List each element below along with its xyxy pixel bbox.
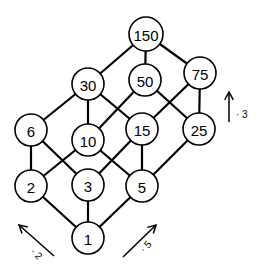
arrow-line-icon bbox=[123, 225, 156, 257]
node-label: 75 bbox=[192, 66, 209, 83]
node-label: 30 bbox=[80, 77, 97, 94]
node-label: 10 bbox=[80, 133, 97, 150]
node-label: 25 bbox=[191, 122, 208, 139]
node-label: 6 bbox=[27, 123, 35, 140]
lattice-nodes: 15030507561015252351 bbox=[15, 17, 216, 254]
arrow-label: · 3 bbox=[236, 109, 248, 120]
divisor-lattice-diagram: 15030507561015252351 · 2· 5· 3 bbox=[0, 0, 261, 273]
node-label: 3 bbox=[84, 178, 92, 195]
node-30: 30 bbox=[72, 68, 104, 100]
node-label: 1 bbox=[84, 231, 92, 248]
node-label: 5 bbox=[138, 179, 146, 196]
arrow-label: · 2 bbox=[29, 246, 45, 262]
arrow-times5: · 5 bbox=[123, 225, 156, 257]
arrow-times3: · 3 bbox=[225, 92, 248, 122]
node-50: 50 bbox=[129, 64, 161, 96]
node-25: 25 bbox=[183, 113, 215, 145]
node-150: 150 bbox=[129, 17, 163, 51]
node-5: 5 bbox=[126, 170, 158, 202]
arrow-times2: · 2 bbox=[19, 225, 54, 262]
node-1: 1 bbox=[72, 222, 104, 254]
lattice-edges bbox=[31, 34, 200, 238]
node-2: 2 bbox=[15, 170, 47, 202]
node-label: 15 bbox=[134, 122, 151, 139]
node-6: 6 bbox=[15, 114, 47, 146]
node-label: 150 bbox=[133, 27, 158, 44]
node-label: 50 bbox=[137, 73, 154, 90]
node-3: 3 bbox=[72, 169, 104, 201]
node-label: 2 bbox=[27, 179, 35, 196]
node-75: 75 bbox=[184, 57, 216, 89]
node-15: 15 bbox=[126, 113, 158, 145]
node-10: 10 bbox=[72, 124, 104, 156]
